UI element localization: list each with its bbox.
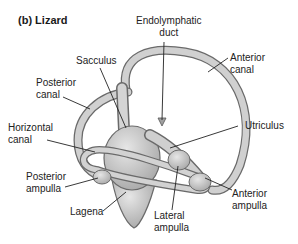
label-lagena: Lagena <box>70 206 103 218</box>
label-posterior-ampulla: Posterior ampulla <box>26 171 66 195</box>
inner-ear-diagram: (b) Lizard Endolymphatic duct Sacculus A… <box>0 0 298 244</box>
label-endolymphatic-duct: Endolymphatic duct <box>136 15 202 39</box>
figure-title: (b) Lizard <box>18 14 68 26</box>
label-lateral-ampulla: Lateral ampulla <box>154 210 189 234</box>
label-anterior-ampulla: Anterior ampulla <box>232 188 267 212</box>
posterior-ampulla-shape <box>93 170 111 184</box>
label-utriculus: Utriculus <box>245 120 284 132</box>
label-sacculus: Sacculus <box>76 55 117 67</box>
label-posterior-canal: Posterior canal <box>36 77 76 101</box>
lateral-ampulla-shape <box>168 150 190 170</box>
anterior-ampulla-shape <box>189 173 211 191</box>
label-horizontal-canal: Horizontal canal <box>8 122 53 146</box>
label-anterior-canal: Anterior canal <box>230 52 265 76</box>
